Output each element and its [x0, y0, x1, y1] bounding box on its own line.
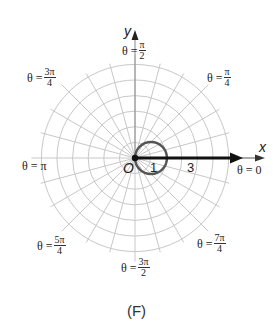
angle-label-pi-over-4: θ =π4	[207, 67, 231, 88]
angle-label-pi-over-2: θ =π2	[122, 40, 146, 61]
angle-label-pi: θ = π	[22, 160, 47, 172]
y-axis-label: y	[124, 24, 131, 38]
angle-label-5pi-over-4: θ =5π4	[37, 235, 66, 256]
angle-label-3pi-over-4: θ =3π4	[27, 67, 56, 88]
grid-spoke	[50, 109, 135, 158]
grid-spoke	[135, 158, 208, 231]
x-axis-arrowhead-icon	[255, 155, 265, 162]
figure-caption: (F)	[0, 302, 273, 319]
ray-arrowhead-icon	[230, 153, 243, 164]
grid-spoke	[86, 73, 135, 158]
y-axis-arrowhead-icon	[132, 30, 139, 40]
tick-label-3: 3	[187, 161, 194, 174]
grid-spoke	[135, 158, 220, 207]
grid-spoke	[135, 109, 220, 158]
grid-spoke	[62, 85, 135, 158]
tick-label-1: 1	[150, 161, 157, 174]
origin-label: O	[123, 161, 134, 175]
grid-spoke	[135, 85, 208, 158]
angle-label-zero: θ = 0	[237, 164, 262, 176]
angle-label-3pi-over-2: θ =3π2	[121, 257, 150, 278]
x-axis-label: x	[259, 140, 266, 154]
angle-label-7pi-over-4: θ =7π4	[197, 233, 226, 254]
